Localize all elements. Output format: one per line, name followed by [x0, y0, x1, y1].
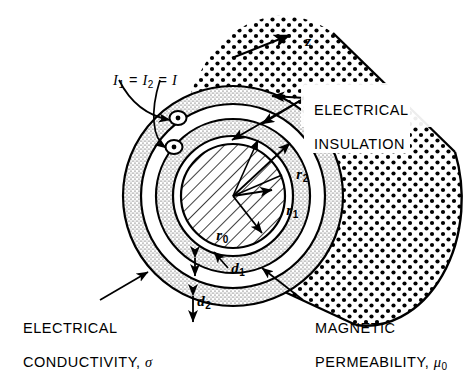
callout-electrical-conductivity: ELECTRICAL CONDUCTIVITY, σ	[14, 303, 153, 371]
dimension-label-d2: d2	[188, 274, 211, 311]
dimension-label-r2: r2	[287, 147, 309, 184]
callout-electrical-insulation: ELECTRICAL INSULATION	[304, 85, 410, 153]
current-dot-icon-outer	[170, 111, 187, 125]
z-axis-label: z	[296, 14, 312, 50]
dimension-label-d1: d1	[222, 241, 245, 278]
current-dot-icon-inner	[166, 140, 183, 154]
dimension-label-r1: r1	[277, 183, 299, 220]
dimension-label-r0: r0	[207, 208, 229, 245]
conductivity-leader	[100, 272, 148, 300]
callout-magnetic-permeability: MAGNETIC PERMEABILITY, μ0	[306, 303, 448, 373]
current-equality-label: I1 = I2 = I	[104, 55, 177, 91]
